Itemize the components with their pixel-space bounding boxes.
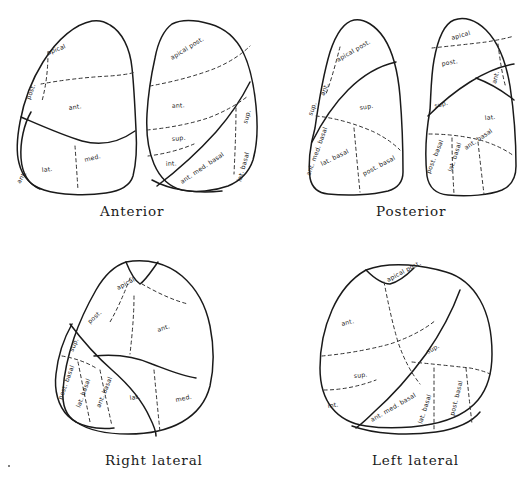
seg-label-lat: lat. bbox=[129, 393, 141, 401]
view-left-lateral: apical post. ant. sup. int. sup. ant. me… bbox=[300, 250, 520, 440]
seg-label-ant: ant. bbox=[172, 101, 185, 109]
caption-anterior: Anterior bbox=[100, 203, 164, 219]
lung-segments-figure: apical post. ant. lat. med. ant. apical … bbox=[0, 0, 521, 481]
view-posterior: apical post. ant. sup. sup. ant. med. ba… bbox=[280, 0, 521, 200]
anterior-left-lung: apical post. ant. sup. int. ant. med. ba… bbox=[0, 0, 270, 200]
caption-right-lateral: Right lateral bbox=[105, 452, 203, 468]
seg-label-lat: lat. bbox=[484, 113, 495, 121]
seg-label-inf-lingula: int. bbox=[166, 159, 177, 167]
caption-posterior: Posterior bbox=[376, 203, 446, 219]
right-lateral-outline bbox=[63, 261, 213, 434]
caption-left-lateral: Left lateral bbox=[372, 452, 459, 468]
seg-label-inf-lingula: int. bbox=[327, 401, 339, 409]
corner-artifact-dot bbox=[8, 465, 10, 467]
view-right-lateral: apical post. ant. sup. post. basal lat. … bbox=[30, 250, 260, 440]
view-anterior: apical post. ant. lat. med. ant. apical … bbox=[0, 0, 270, 200]
